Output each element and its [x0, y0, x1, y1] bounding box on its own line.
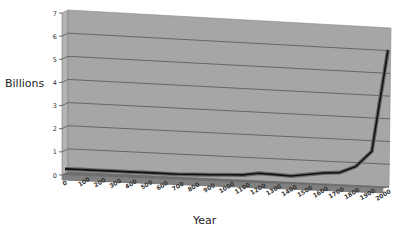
- y-axis-ticks: 01234567: [53, 10, 62, 180]
- x-axis-label: Year: [193, 214, 216, 227]
- y-tick-label: 5: [53, 56, 57, 64]
- y-tick-label: 2: [53, 125, 57, 133]
- back-wall: [68, 10, 391, 187]
- y-tick-label: 7: [53, 10, 57, 18]
- y-tick-label: 4: [53, 79, 57, 87]
- y-tick-label: 6: [53, 33, 57, 41]
- chart-canvas: 01234567 0100200300400500600700800900100…: [0, 0, 407, 243]
- y-tick-label: 0: [53, 172, 57, 180]
- plot-walls: [62, 10, 391, 187]
- y-tick-label: 3: [53, 102, 57, 110]
- y-tick-label: 1: [53, 148, 57, 156]
- y-axis-label: Billions: [5, 77, 44, 90]
